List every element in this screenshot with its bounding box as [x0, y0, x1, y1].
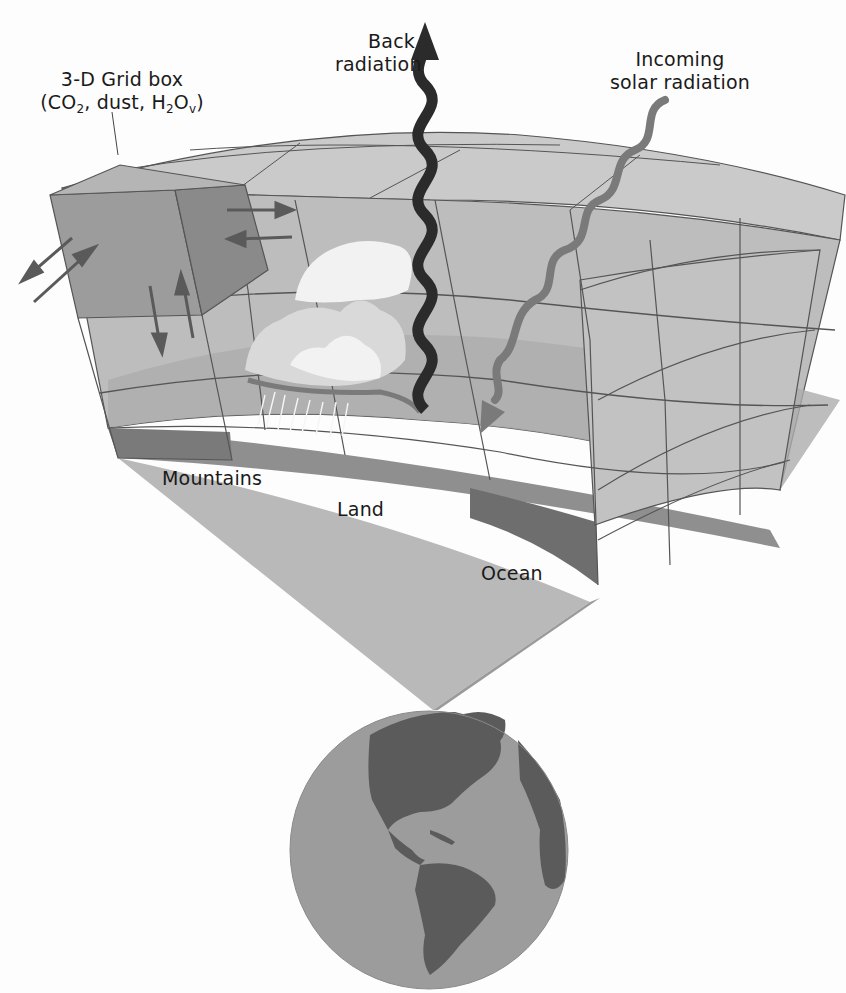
incoming-solar-label: Incoming solar radiation — [600, 48, 760, 94]
back-radiation-line2: radiation — [335, 53, 415, 76]
land-label: Land — [337, 498, 384, 521]
back-radiation-line1: Back — [335, 30, 415, 53]
mountains-label: Mountains — [162, 467, 262, 490]
back-radiation-label: Back radiation — [335, 30, 415, 76]
globe-icon — [290, 711, 568, 989]
ocean-label: Ocean — [481, 562, 543, 585]
incoming-solar-line1: Incoming — [600, 48, 760, 71]
grid-box-leader-line — [0, 0, 846, 200]
climate-model-diagram: 3-D Grid box (CO2, dust, H2Ov) Back radi… — [0, 0, 846, 993]
incoming-solar-line2: solar radiation — [600, 71, 760, 94]
